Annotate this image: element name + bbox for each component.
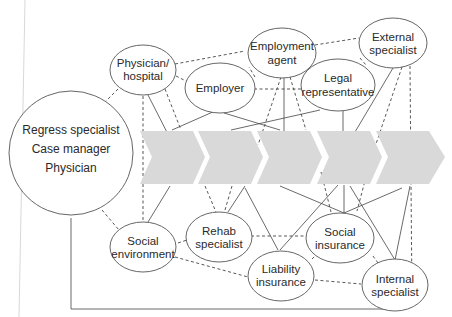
central-node-line-2: Case manager <box>32 142 111 156</box>
node-legal-representative: Legal representative <box>301 59 375 111</box>
node-external-specialist: External specialist <box>359 18 427 68</box>
node-employer: Employer <box>185 63 255 113</box>
process-step-2 <box>198 131 263 184</box>
node-label: Employer <box>196 82 245 94</box>
node-label: representative <box>302 86 375 98</box>
node-social-insurance: Social insurance <box>306 213 374 263</box>
node-label: Social <box>324 226 355 238</box>
node-rehab-specialist: Rehab specialist <box>186 212 252 262</box>
central-node: Regress specialist Case manager Physicia… <box>9 91 133 215</box>
stakeholder-network-diagram: Regress specialist Case manager Physicia… <box>0 0 452 317</box>
node-internal-specialist: Internal specialist <box>362 259 428 311</box>
process-chevrons <box>140 131 445 184</box>
process-step-4 <box>317 131 382 184</box>
node-label: Liability <box>262 263 301 275</box>
node-label: Physician/ <box>117 57 170 69</box>
node-label: Employment <box>250 40 315 52</box>
process-step-1 <box>140 131 205 184</box>
central-node-line-1: Regress specialist <box>22 123 120 137</box>
node-label: Internal <box>376 273 414 285</box>
node-label: agent <box>268 54 298 66</box>
node-label: External <box>372 31 414 43</box>
node-label: specialist <box>371 286 419 298</box>
node-label: hospital <box>123 70 163 82</box>
node-label: insurance <box>315 239 365 251</box>
process-step-5 <box>376 131 445 184</box>
node-label: Social <box>127 235 158 247</box>
node-social-environment: Social environment <box>110 222 176 272</box>
node-physician-hospital: Physician/ hospital <box>110 45 176 95</box>
process-step-3 <box>257 131 322 184</box>
node-liability-insurance: Liability insurance <box>248 251 314 301</box>
node-label: insurance <box>256 276 306 288</box>
central-node-line-3: Physician <box>45 161 96 175</box>
node-label: Rehab <box>202 225 236 237</box>
node-employment-agent: Employment agent <box>248 28 316 78</box>
node-label: specialist <box>195 238 243 250</box>
node-label: specialist <box>369 44 417 56</box>
node-label: Legal <box>324 72 352 84</box>
node-label: environment <box>111 248 175 260</box>
